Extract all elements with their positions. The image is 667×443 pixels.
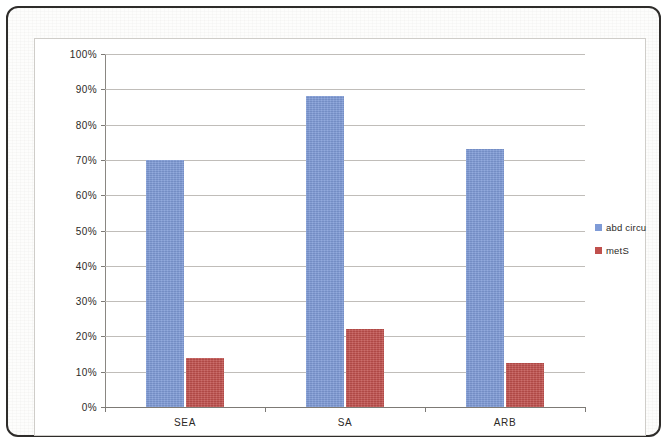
plot-area <box>105 54 585 407</box>
bar-arb-mets <box>506 363 544 407</box>
y-axis-tick-label: 60% <box>53 190 97 201</box>
y-axis-tick-label: 40% <box>53 260 97 271</box>
legend-swatch-icon <box>595 247 602 254</box>
legend-swatch-icon <box>595 224 602 231</box>
bar-sa-mets <box>346 329 384 407</box>
legend-label: abd circu <box>606 222 646 233</box>
legend-label: metS <box>606 245 629 256</box>
bar-sea-mets <box>186 358 224 407</box>
legend-item-mets: metS <box>595 245 647 256</box>
bar-sea-abd-circu <box>146 160 184 407</box>
gridline <box>105 407 585 408</box>
bar-group <box>265 54 425 407</box>
x-axis-category-label-arb: ARB <box>494 417 516 428</box>
y-axis-tick-label: 10% <box>53 366 97 377</box>
legend-item-abd-circu: abd circu <box>595 222 647 233</box>
x-axis-tick-mark <box>265 407 266 412</box>
bar-arb-abd-circu <box>466 149 504 407</box>
y-axis-tick-label: 90% <box>53 84 97 95</box>
y-axis-tick-label: 20% <box>53 331 97 342</box>
x-axis-tick-mark <box>105 407 106 412</box>
bar-group <box>105 54 265 407</box>
y-axis-tick-label: 80% <box>53 119 97 130</box>
scanned-page-frame: 0%10%20%30%40%50%60%70%80%90%100% SEASAA… <box>6 6 661 437</box>
x-axis-category-label-sa: SA <box>338 417 353 428</box>
y-axis-tick-label: 50% <box>53 225 97 236</box>
bar-sa-abd-circu <box>306 96 344 407</box>
y-axis-tick-label: 30% <box>53 296 97 307</box>
bar-group <box>425 54 585 407</box>
x-axis-category-label-sea: SEA <box>174 417 196 428</box>
x-axis-tick-mark <box>425 407 426 412</box>
y-axis-tick-label: 70% <box>53 154 97 165</box>
x-axis-tick-mark <box>585 407 586 412</box>
chart-legend: abd circumetS <box>595 222 647 268</box>
y-axis-tick-label: 100% <box>53 49 97 60</box>
y-axis-tick-label: 0% <box>53 402 97 413</box>
chart-container: 0%10%20%30%40%50%60%70%80%90%100% SEASAA… <box>34 38 646 436</box>
